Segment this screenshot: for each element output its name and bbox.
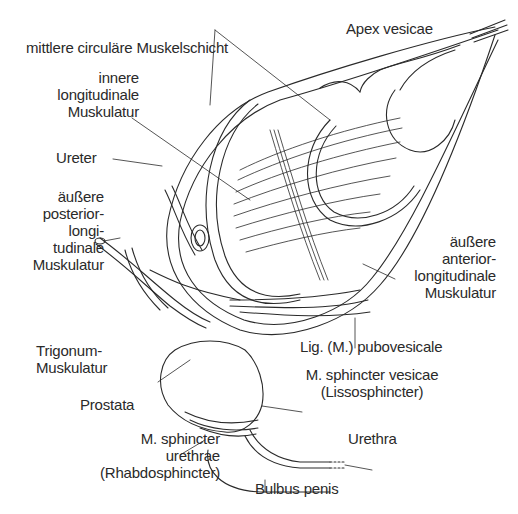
label-line: äußere xyxy=(18,188,104,205)
leader-lines xyxy=(104,30,395,492)
label-posterior-longitudinal: äußere posterior- longi- tudinale Muskul… xyxy=(18,188,104,273)
label-line: Muskulatur xyxy=(36,359,107,376)
inner-longitudinal-fibres xyxy=(234,118,402,280)
anatomical-figure: mittlere circuläre Muskelschicht Apex ve… xyxy=(0,0,518,514)
label-line: anterior- xyxy=(400,250,496,267)
label-sphincter-urethrae: M. sphincter urethrae (Rhabdosphincter) xyxy=(60,430,220,481)
label-line: longi- xyxy=(18,222,104,239)
prostate xyxy=(161,341,264,436)
label-line: Muskulatur xyxy=(20,103,139,120)
label-line: (Rhabdosphincter) xyxy=(60,464,220,481)
label-line: (Lissosphincter) xyxy=(284,383,460,400)
label-ureter: Ureter xyxy=(56,149,96,166)
label-line: M. sphincter xyxy=(60,430,220,447)
label-line: Muskulatur xyxy=(400,284,496,301)
label-line: posterior- xyxy=(18,205,104,222)
label-trigonum: Trigonum- Muskulatur xyxy=(36,342,107,376)
label-circular-muscle: mittlere circuläre Muskelschicht xyxy=(26,39,228,56)
label-bulbus-penis: Bulbus penis xyxy=(255,480,339,497)
label-line: Trigonum- xyxy=(36,342,107,359)
label-line: longitudinale xyxy=(20,86,139,103)
label-pubovesical-ligament: Lig. (M.) pubovesicale xyxy=(300,338,442,355)
label-line: Muskulatur xyxy=(18,256,104,273)
label-line: tudinale xyxy=(18,239,104,256)
label-line: longitudinale xyxy=(400,267,496,284)
label-apex-vesicae: Apex vesicae xyxy=(346,20,433,37)
label-sphincter-vesicae: M. sphincter vesicae (Lissosphincter) xyxy=(284,366,460,400)
label-inner-longitudinal: innere longitudinale Muskulatur xyxy=(20,69,139,120)
label-anterior-longitudinal: äußere anterior- longitudinale Muskulatu… xyxy=(400,233,496,301)
label-line: innere xyxy=(20,69,139,86)
label-urethra: Urethra xyxy=(348,430,397,447)
label-line: urethrae xyxy=(60,447,220,464)
label-line: M. sphincter vesicae xyxy=(284,366,460,383)
label-line: äußere xyxy=(400,233,496,250)
label-prostata: Prostata xyxy=(80,396,134,413)
